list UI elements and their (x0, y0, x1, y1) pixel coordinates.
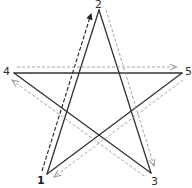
pentagram-diagram (0, 0, 192, 188)
vertex-label-3: 3 (151, 176, 158, 187)
order-arrow-3-to-4 (12, 80, 144, 176)
vertex-label-1: 1 (37, 175, 45, 186)
order-arrow-1-to-2 (42, 14, 91, 171)
vertex-label-4: 4 (3, 66, 10, 77)
order-arrow-5-to-1 (54, 80, 183, 177)
star-edge-5-1 (47, 73, 182, 174)
pentagram-edges (14, 10, 182, 174)
stroke-order-arrows (12, 10, 183, 177)
vertex-label-5: 5 (185, 66, 192, 77)
order-arrow-2-to-3 (106, 10, 154, 166)
vertex-label-2: 2 (95, 0, 102, 10)
